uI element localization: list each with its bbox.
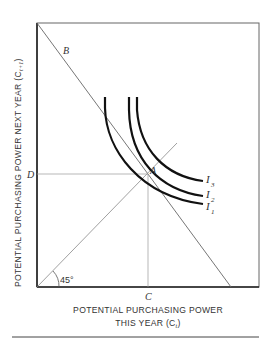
x-axis-label-line2: THIS YEAR (Ct) <box>115 318 180 329</box>
label-d: D <box>26 169 35 180</box>
svg-text:3: 3 <box>210 181 215 189</box>
angle-label: 45° <box>60 275 74 285</box>
angle-arc <box>53 271 59 287</box>
svg-text:POTENTIAL PURCHASING POWER NEX: POTENTIAL PURCHASING POWER NEXT YEAR (Ct… <box>13 58 24 287</box>
label-a: A <box>149 165 157 176</box>
x-axis-label-line1: POTENTIAL PURCHASING POWER <box>73 305 223 315</box>
label-b: B <box>63 45 69 56</box>
indifference-curve-i1 <box>105 97 203 204</box>
svg-text:1: 1 <box>211 208 215 216</box>
svg-text:2: 2 <box>211 196 215 204</box>
indifference-curve-i3 <box>137 97 203 181</box>
label-c: C <box>145 291 152 302</box>
indifference-diagram: B A D C 45° I 3 I 2 I 1 POTENTIAL PURCHA… <box>0 0 271 340</box>
budget-line <box>37 23 231 287</box>
curve-label-i3: I 3 <box>205 173 215 189</box>
y-axis-label: POTENTIAL PURCHASING POWER NEXT YEAR (Ct… <box>13 58 24 287</box>
